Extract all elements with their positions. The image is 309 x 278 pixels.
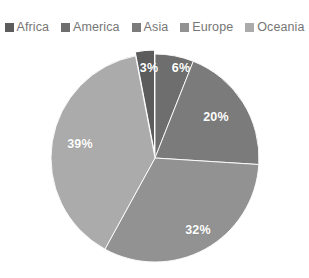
slice-label-europe: 32%: [185, 223, 211, 237]
slice-label-america: 6%: [172, 61, 190, 75]
pie-plot-area: 3% 6% 20% 32% 39%: [0, 0, 309, 278]
slice-label-africa: 3%: [140, 61, 158, 75]
pie-chart-figure: Africa America Asia Europe Oceania 3% 6%…: [0, 0, 309, 278]
slice-label-oceania: 39%: [67, 137, 93, 151]
pie-svg: [0, 0, 309, 278]
slice-label-asia: 20%: [203, 110, 229, 124]
pie-slice-group: [51, 50, 259, 262]
